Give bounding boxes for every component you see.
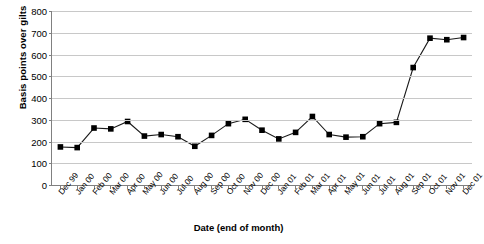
data-point-marker: [158, 132, 164, 138]
data-point-marker: [74, 145, 80, 151]
data-point-marker: [91, 125, 97, 131]
data-point-marker: [461, 35, 467, 41]
y-gridline: [52, 120, 472, 121]
data-point-marker: [410, 65, 416, 71]
y-tick-label: 700: [7, 27, 47, 38]
data-point-marker: [360, 134, 366, 140]
data-point-marker: [58, 144, 64, 150]
y-gridline: [52, 76, 472, 77]
y-tick-label: 800: [7, 6, 47, 17]
y-tick-mark: [49, 163, 52, 164]
data-point-marker: [259, 127, 265, 133]
y-gridline: [52, 142, 472, 143]
data-point-marker: [192, 143, 198, 149]
y-gridline: [52, 163, 472, 164]
y-gridline: [52, 55, 472, 56]
y-tick-label: 400: [7, 93, 47, 104]
y-gridline: [52, 11, 472, 12]
x-axis-title: Date (end of month): [0, 222, 477, 233]
y-tick-label: 100: [7, 158, 47, 169]
y-tick-mark: [49, 55, 52, 56]
y-gridline: [52, 33, 472, 34]
y-tick-mark: [49, 33, 52, 34]
y-gridline: [52, 98, 472, 99]
data-point-marker: [108, 126, 114, 132]
y-tick-label: 0: [7, 180, 47, 191]
y-tick-label: 600: [7, 49, 47, 60]
data-point-marker: [343, 134, 349, 140]
y-tick-label: 200: [7, 136, 47, 147]
data-point-marker: [293, 130, 299, 136]
y-tick-label: 500: [7, 71, 47, 82]
data-point-marker: [444, 37, 450, 43]
data-point-marker: [310, 114, 316, 120]
plot-area: 0100200300400500600700800Dec 99Jan 00Feb…: [51, 11, 472, 186]
data-point-marker: [142, 133, 148, 139]
data-point-marker: [226, 121, 232, 127]
y-tick-mark: [49, 120, 52, 121]
y-tick-label: 300: [7, 114, 47, 125]
data-point-marker: [427, 35, 433, 41]
data-point-marker: [326, 132, 332, 138]
y-tick-mark: [49, 98, 52, 99]
y-tick-mark: [49, 11, 52, 12]
data-point-marker: [377, 121, 383, 127]
y-tick-mark: [49, 185, 52, 186]
y-tick-mark: [49, 76, 52, 77]
data-point-marker: [209, 133, 215, 139]
y-tick-mark: [49, 142, 52, 143]
data-point-marker: [175, 134, 181, 140]
